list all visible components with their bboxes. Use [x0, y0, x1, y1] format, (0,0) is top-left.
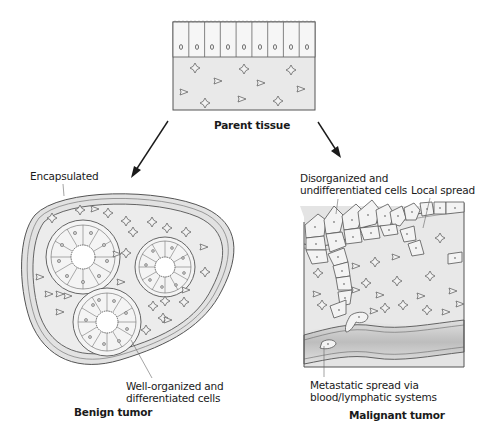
- parent-tissue-illustration: [173, 21, 315, 110]
- malignant-tumor-illustration: [300, 200, 464, 367]
- label-well-organized-2: differentiated cells: [126, 392, 220, 404]
- label-well-organized-1: Well-organized and: [126, 380, 223, 392]
- malignant-tumor-title: Malignant tumor: [349, 409, 445, 421]
- leader-encapsulated: [63, 184, 64, 196]
- label-disorganized-2: undifferentiated cells: [300, 184, 407, 196]
- parent-tissue-title: Parent tissue: [214, 119, 290, 131]
- benign-tumor-illustration: [22, 194, 234, 365]
- label-metastatic-2: blood/lymphatic systems: [310, 391, 437, 403]
- label-encapsulated: Encapsulated: [30, 170, 98, 182]
- tumor-diagram: [0, 0, 489, 440]
- benign-tumor-title: Benign tumor: [74, 406, 152, 418]
- arrow-to-benign: [131, 121, 168, 178]
- label-local-spread: Local spread: [411, 184, 475, 196]
- label-metastatic-1: Metastatic spread via: [310, 379, 419, 391]
- arrow-to-malignant: [318, 122, 341, 158]
- label-disorganized-1: Disorganized and: [300, 172, 388, 184]
